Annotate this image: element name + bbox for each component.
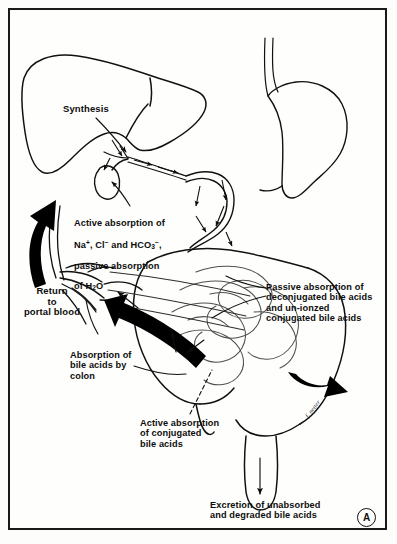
label-absorption-by-colon: Absorption of bile acids by colon xyxy=(70,350,132,381)
anatomy-illustration xyxy=(0,0,397,544)
synthesis-flow-arrow xyxy=(112,140,122,156)
cecum xyxy=(200,388,234,404)
jejunum-flow-arrow xyxy=(196,216,206,232)
portal-vein-trunk-2 xyxy=(57,206,64,280)
hepatic-duct-right xyxy=(120,146,128,158)
ileum-flow-arrow-thin xyxy=(226,232,232,246)
rectum-left-wall xyxy=(245,436,261,510)
esophagus-right-wall xyxy=(273,38,278,92)
figure-root: Synthesis Active absorption of Na+, Cl− … xyxy=(0,0,397,544)
ileum-curved-thick-arrow xyxy=(288,372,348,397)
label-return-to-portal-blood: Return to portal blood xyxy=(14,286,90,318)
duodenum-outline xyxy=(186,172,234,252)
sigmoid xyxy=(236,420,300,436)
label-passive-absorption: Passive absorption of deconjugated bile … xyxy=(266,282,372,323)
label-active-ions-na: Na xyxy=(74,239,86,249)
label-excretion: Excretion of unabsorbed and degraded bil… xyxy=(210,500,321,521)
transverse-colon xyxy=(148,249,308,269)
gallbladder-fill-arrow xyxy=(104,158,110,170)
label-synthesis: Synthesis xyxy=(63,104,109,115)
label-active-ions-comma: , xyxy=(159,239,162,249)
label-active-ions-h2o-post: O xyxy=(96,281,103,291)
duodenum-flow-arrow-3 xyxy=(196,186,200,206)
active-conjugated-dashed-leader xyxy=(190,370,212,414)
duodenum-flow-arrow-1 xyxy=(222,180,226,200)
panel-letter-badge: A xyxy=(357,508,376,527)
stomach-outline xyxy=(268,82,347,198)
gallbladder-outline xyxy=(95,166,120,199)
pylorus xyxy=(260,186,282,191)
esophagus-left-wall xyxy=(264,38,268,96)
liver-lobe-line xyxy=(126,104,148,138)
label-active-ions-line1: Active absorption of xyxy=(74,218,165,228)
label-active-ions-cl: , Cl xyxy=(90,239,105,249)
active-ion-leader xyxy=(112,182,130,206)
rectum-right-wall xyxy=(260,436,278,510)
common-bile-duct-lower xyxy=(128,162,186,180)
label-active-ions-hco3: and HCO xyxy=(109,239,152,249)
label-active-ions-line3: passive absorption xyxy=(74,261,160,271)
colon-leader xyxy=(134,366,186,375)
label-active-absorption-conjugated: Active absorption of conjugated bile aci… xyxy=(140,418,219,449)
portal-return-thick-arrow xyxy=(29,200,56,288)
liver-fissure xyxy=(150,78,152,106)
label-active-absorption-ions: Active absorption of Na+, Cl− and HCO3−,… xyxy=(74,208,165,292)
